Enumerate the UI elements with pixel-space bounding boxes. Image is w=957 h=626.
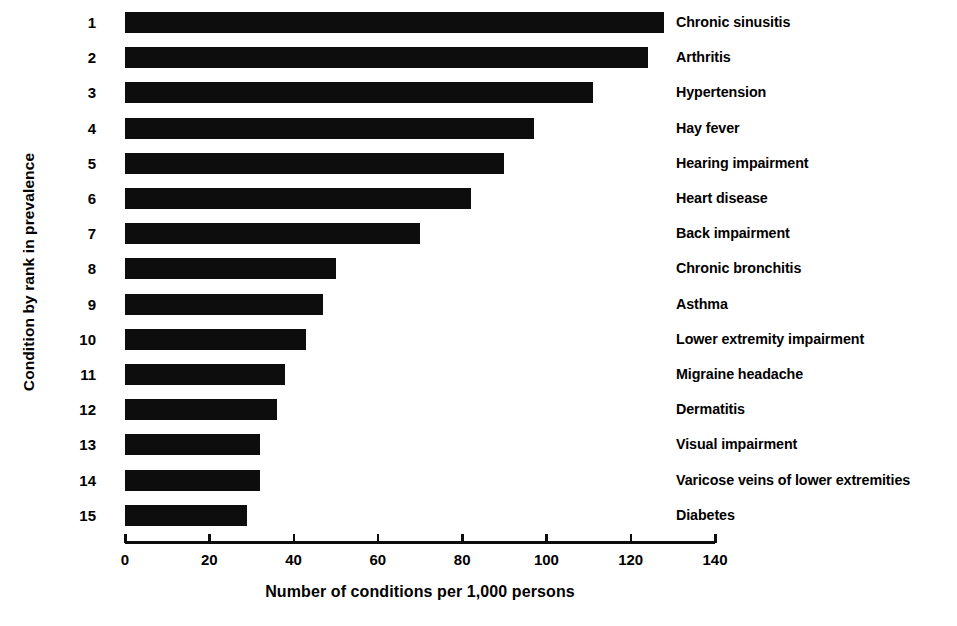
x-tick-label: 100 [516, 551, 576, 568]
x-tick-label: 0 [95, 551, 155, 568]
rank-label: 8 [52, 258, 96, 279]
category-label: Hearing impairment [676, 153, 808, 174]
bar-row: 13Visual impairment [0, 434, 957, 455]
category-label: Varicose veins of lower extremities [676, 470, 910, 491]
category-label: Back impairment [676, 223, 790, 244]
bar [125, 434, 260, 455]
bar [125, 47, 648, 68]
category-label: Asthma [676, 294, 728, 315]
bar-row: 3Hypertension [0, 82, 957, 103]
x-axis-title: Number of conditions per 1,000 persons [125, 583, 715, 601]
bar-row: 4Hay fever [0, 118, 957, 139]
bar [125, 329, 306, 350]
bar [125, 118, 534, 139]
rank-label: 12 [52, 399, 96, 420]
bar-chart-figure: Condition by rank in prevalence 1Chronic… [0, 0, 957, 626]
bar-row: 5Hearing impairment [0, 153, 957, 174]
x-axis-line [125, 541, 715, 544]
rank-label: 15 [52, 505, 96, 526]
bar-row: 2Arthritis [0, 47, 957, 68]
x-tick-mark [377, 534, 380, 542]
plot-area: 1Chronic sinusitis2Arthritis3Hypertensio… [0, 0, 957, 626]
category-label: Migraine headache [676, 364, 803, 385]
rank-label: 3 [52, 82, 96, 103]
bar-row: 12Dermatitis [0, 399, 957, 420]
x-tick-mark [714, 534, 717, 543]
bar [125, 470, 260, 491]
rank-label: 13 [52, 434, 96, 455]
category-label: Dermatitis [676, 399, 745, 420]
bar-row: 10Lower extremity impairment [0, 329, 957, 350]
bar [125, 399, 277, 420]
category-label: Hypertension [676, 82, 766, 103]
x-tick-label: 60 [348, 551, 408, 568]
bar-row: 11Migraine headache [0, 364, 957, 385]
rank-label: 9 [52, 294, 96, 315]
rank-label: 14 [52, 470, 96, 491]
category-label: Chronic sinusitis [676, 12, 790, 33]
x-tick-label: 40 [264, 551, 324, 568]
bar [125, 82, 593, 103]
rank-label: 10 [52, 329, 96, 350]
bar [125, 294, 323, 315]
rank-label: 6 [52, 188, 96, 209]
bar [125, 364, 285, 385]
x-tick-label: 140 [685, 551, 745, 568]
rank-label: 11 [52, 364, 96, 385]
x-tick-label: 120 [601, 551, 661, 568]
x-tick-mark [545, 534, 548, 542]
x-tick-mark [293, 534, 296, 542]
category-label: Arthritis [676, 47, 731, 68]
bar-row: 8Chronic bronchitis [0, 258, 957, 279]
x-tick-mark [124, 534, 127, 543]
bar [125, 12, 664, 33]
rank-label: 5 [52, 153, 96, 174]
bar-row: 9Asthma [0, 294, 957, 315]
bar-row: 6Heart disease [0, 188, 957, 209]
x-tick-mark [208, 534, 211, 542]
category-label: Diabetes [676, 505, 735, 526]
category-label: Lower extremity impairment [676, 329, 864, 350]
rank-label: 7 [52, 223, 96, 244]
rank-label: 1 [52, 12, 96, 33]
x-tick-label: 80 [432, 551, 492, 568]
bar [125, 223, 420, 244]
category-label: Visual impairment [676, 434, 797, 455]
x-tick-mark [461, 534, 464, 542]
category-label: Heart disease [676, 188, 768, 209]
rank-label: 2 [52, 47, 96, 68]
category-label: Hay fever [676, 118, 739, 139]
x-tick-label: 20 [179, 551, 239, 568]
bar [125, 505, 247, 526]
category-label: Chronic bronchitis [676, 258, 801, 279]
bar-row: 14Varicose veins of lower extremities [0, 470, 957, 491]
x-tick-mark [630, 534, 633, 542]
rank-label: 4 [52, 118, 96, 139]
bar-row: 1Chronic sinusitis [0, 12, 957, 33]
bar [125, 153, 504, 174]
bar [125, 258, 336, 279]
bar-row: 15Diabetes [0, 505, 957, 526]
bar [125, 188, 471, 209]
bar-row: 7Back impairment [0, 223, 957, 244]
